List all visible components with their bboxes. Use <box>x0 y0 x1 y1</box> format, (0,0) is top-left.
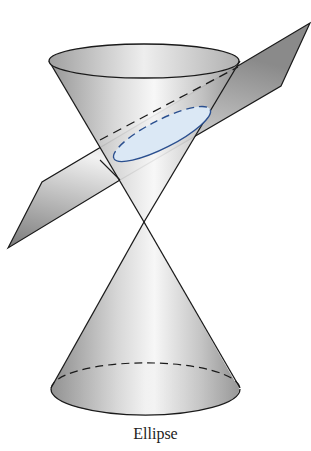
conic-section-diagram <box>0 0 311 451</box>
figure-caption: Ellipse <box>0 425 311 443</box>
lower-cone <box>51 222 240 415</box>
